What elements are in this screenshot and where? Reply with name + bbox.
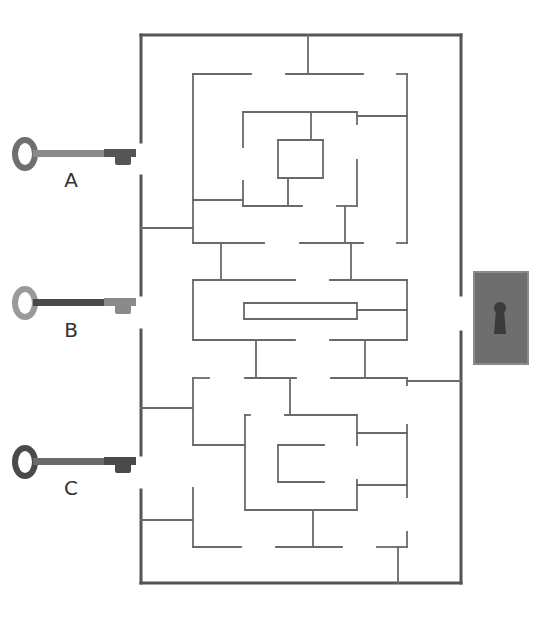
key-c-label: C: [56, 476, 86, 500]
key-a-label: A: [56, 168, 86, 192]
key-b[interactable]: [15, 289, 136, 317]
key-b-icon: [15, 289, 136, 317]
lock-plate[interactable]: [474, 272, 528, 364]
key-a[interactable]: [15, 140, 136, 168]
key-a-icon: [15, 140, 136, 168]
keyhole-icon: [494, 302, 506, 334]
maze-puzzle: [0, 0, 548, 618]
maze-outer-wall: [141, 35, 461, 583]
key-c[interactable]: [15, 448, 136, 476]
maze-inner-walls: [141, 35, 461, 583]
key-b-label: B: [56, 318, 86, 342]
key-c-icon: [15, 448, 136, 476]
